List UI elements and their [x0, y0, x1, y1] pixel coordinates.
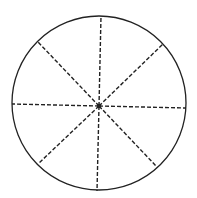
- spoke-bottom-right: [99, 106, 157, 167]
- spoke-bottom-left: [38, 106, 99, 164]
- center-point: [97, 104, 101, 108]
- spoke-top-left: [38, 42, 99, 106]
- spoke-top-right: [99, 44, 163, 106]
- spoke-bottom: [97, 106, 99, 191]
- spoke-left: [12, 104, 99, 106]
- spoke-top: [99, 16, 101, 106]
- spoke-right: [99, 106, 186, 108]
- divided-circle-diagram: [0, 0, 197, 198]
